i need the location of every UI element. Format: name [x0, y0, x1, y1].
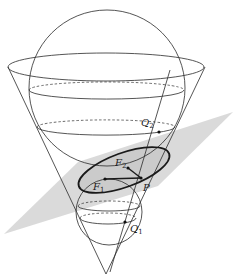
point-q1	[123, 220, 126, 223]
point-q2	[157, 130, 160, 133]
upper-circle-back	[29, 82, 184, 90]
q2-circle-front	[37, 127, 175, 135]
point-f2	[126, 166, 129, 169]
label-q1: Q1	[130, 223, 143, 236]
cone-top-rim	[8, 53, 204, 81]
label-q2: Q2	[141, 117, 154, 130]
label-p: P	[142, 182, 150, 193]
dandelin-spheres-diagram: Q2 F2 F1 P Q1	[0, 0, 233, 278]
point-f1	[103, 177, 106, 180]
segment-f1-p	[105, 178, 141, 179]
point-p	[139, 176, 142, 179]
upper-circle-front	[29, 90, 184, 99]
q1-circle-front	[80, 218, 136, 224]
